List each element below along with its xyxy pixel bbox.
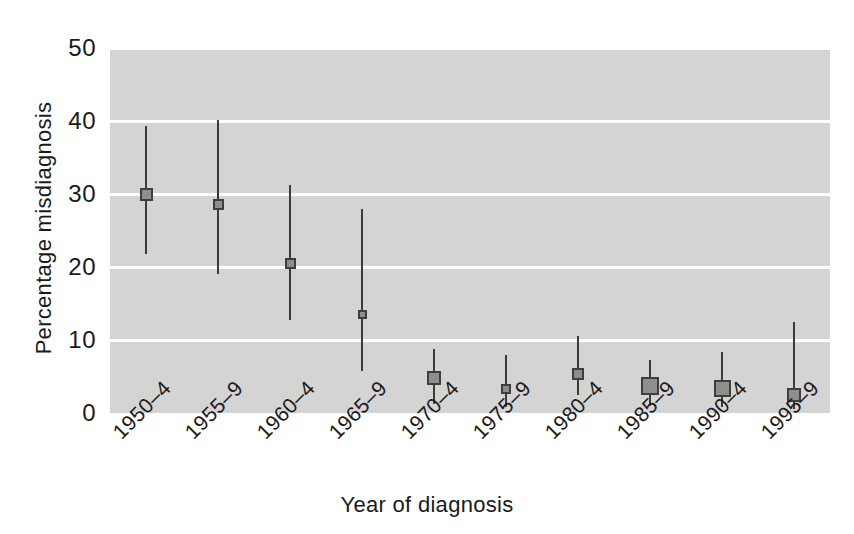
error-bar: [361, 209, 363, 371]
y-tick-label: 10: [68, 326, 96, 354]
x-axis: 1950–41955–91960–41965–91970–41975–91980…: [110, 413, 830, 503]
y-axis-title: Percentage misdiagnosis: [31, 63, 57, 393]
data-marker: [358, 310, 367, 319]
plot-area: [110, 48, 830, 413]
data-marker: [213, 199, 224, 210]
data-marker: [285, 258, 296, 269]
data-marker: [140, 188, 153, 201]
x-axis-title: Year of diagnosis: [0, 492, 854, 518]
error-bar: [217, 120, 219, 275]
y-tick-label: 20: [68, 253, 96, 281]
error-bar: [289, 185, 291, 321]
gridline-10: [110, 339, 830, 342]
gridline-50: [110, 48, 830, 50]
y-tick-label: 0: [82, 399, 96, 427]
data-marker: [572, 368, 584, 380]
chart-figure: 01020304050 Percentage misdiagnosis 1950…: [0, 0, 854, 534]
y-tick-label: 30: [68, 180, 96, 208]
y-tick-label: 40: [68, 107, 96, 135]
error-bar: [577, 336, 579, 394]
y-tick-label: 50: [68, 34, 96, 62]
